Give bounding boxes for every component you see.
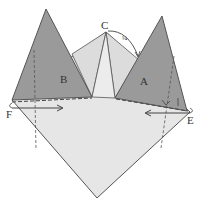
label-b: B bbox=[60, 73, 67, 85]
origami-diagram: B A C E F ¼ bbox=[0, 0, 200, 207]
label-quarter: ¼ bbox=[122, 34, 127, 42]
label-e: E bbox=[187, 114, 194, 126]
label-c: C bbox=[101, 19, 108, 31]
label-a: A bbox=[140, 75, 148, 87]
label-f: F bbox=[6, 108, 12, 120]
